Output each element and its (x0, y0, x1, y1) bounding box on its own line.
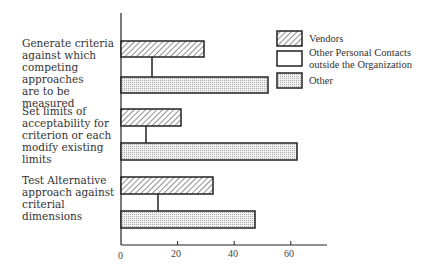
legend-swatch-vendors (277, 31, 302, 46)
bar-chart: 0 20 40 60 Vendors Other Personal Contac… (0, 0, 436, 274)
bar-vendors-limits (121, 109, 181, 126)
tick-40: 40 (228, 248, 238, 259)
bar-vendors-generate (121, 41, 204, 57)
legend: Vendors Other Personal Contacts outside … (277, 31, 413, 88)
legend-label-other: Other (309, 75, 333, 86)
legend-label-contacts-1: Other Personal Contacts (309, 47, 411, 58)
legend-label-vendors: Vendors (309, 33, 343, 44)
bar-other-generate (121, 77, 268, 93)
tick-0: 0 (118, 250, 123, 261)
bar-other-test (121, 211, 255, 228)
legend-swatch-other (277, 73, 302, 88)
bar-vendors-test (121, 177, 213, 194)
tick-60: 60 (284, 248, 294, 259)
legend-label-contacts-2: outside the Organization (309, 59, 413, 70)
bar-other-limits (121, 143, 297, 160)
legend-swatch-contacts (277, 51, 302, 66)
tick-20: 20 (171, 248, 181, 259)
